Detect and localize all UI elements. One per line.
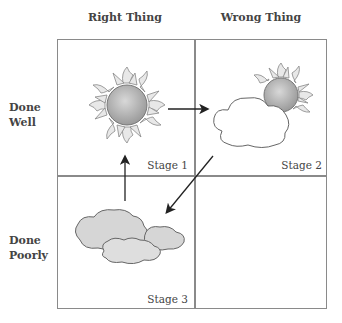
arrow-stage2-to-stage3 [167, 156, 213, 212]
clouds-icon [75, 210, 184, 264]
sun-behind-cloud-icon [214, 63, 313, 148]
diagram-artwork [0, 0, 342, 323]
sun-icon [89, 67, 165, 143]
